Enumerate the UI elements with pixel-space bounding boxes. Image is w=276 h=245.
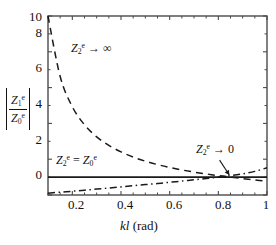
annotation-leader-line (220, 160, 230, 175)
tick-marks (48, 16, 267, 195)
figure-container: Z1e Z0e 0 2 4 6 8 10 0.2 0.4 0.6 0.8 1 k… (0, 0, 276, 245)
data-curves (48, 16, 267, 193)
curve-1-dashed (48, 16, 267, 181)
plot-box (48, 16, 267, 195)
plot-frame (48, 16, 267, 195)
curve-3-dashdot (48, 168, 267, 193)
plot-area (0, 0, 276, 245)
